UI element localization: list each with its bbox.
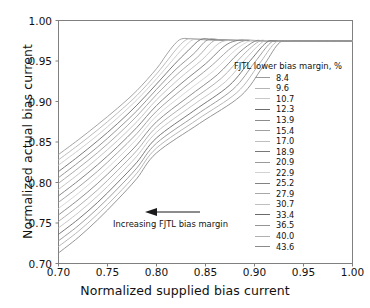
- legend-label: 36.5: [276, 221, 294, 229]
- legend-label: 20.9: [276, 158, 294, 166]
- legend-swatch: [255, 204, 270, 205]
- legend-swatch: [255, 77, 270, 78]
- legend-swatch: [255, 98, 270, 99]
- legend-entry: 8.4: [233, 73, 351, 84]
- x-tick-label: 0.70: [39, 266, 79, 278]
- legend-entry: 30.7: [233, 199, 351, 210]
- y-axis-label: Normalized actual bias current: [20, 22, 35, 262]
- legend-label: 22.9: [276, 169, 294, 177]
- legend-entry: 9.6: [233, 83, 351, 94]
- legend-entry: 40.0: [233, 231, 351, 242]
- x-tick-label: 0.80: [137, 266, 177, 278]
- legend-label: 10.7: [276, 95, 294, 103]
- legend-entry: 22.9: [233, 168, 351, 179]
- x-tick-label: 0.85: [186, 266, 226, 278]
- legend-label: 33.4: [276, 211, 294, 219]
- legend-swatch: [255, 130, 270, 131]
- legend-swatch: [255, 109, 270, 110]
- x-tick-label: 1.00: [333, 266, 370, 278]
- legend-entry: 43.6: [233, 241, 351, 252]
- legend-swatch: [255, 246, 270, 247]
- legend-entry: 12.3: [233, 104, 351, 115]
- legend-entry: 20.9: [233, 157, 351, 168]
- legend-title: FJTL lower bias margin, %: [233, 62, 351, 70]
- legend-label: 15.4: [276, 127, 294, 135]
- legend-swatch: [255, 183, 270, 184]
- legend-swatch: [255, 214, 270, 215]
- legend-swatch: [255, 88, 270, 89]
- legend-label: 12.3: [276, 105, 294, 113]
- legend-swatch: [255, 225, 270, 226]
- legend-label: 25.2: [276, 179, 294, 187]
- legend-label: 13.9: [276, 116, 294, 124]
- legend-entry: 27.9: [233, 189, 351, 200]
- legend-swatch: [255, 162, 270, 163]
- legend-entries: 8.49.610.712.313.915.417.018.920.922.925…: [233, 73, 351, 252]
- legend-entry: 17.0: [233, 136, 351, 147]
- legend-swatch: [255, 172, 270, 173]
- legend-label: 17.0: [276, 137, 294, 145]
- x-tick-label: 0.95: [284, 266, 324, 278]
- legend-entry: 10.7: [233, 94, 351, 105]
- legend-label: 18.9: [276, 148, 294, 156]
- legend-label: 27.9: [276, 190, 294, 198]
- legend-swatch: [255, 151, 270, 152]
- legend-label: 43.6: [276, 243, 294, 251]
- legend-entry: 33.4: [233, 210, 351, 221]
- legend-label: 30.7: [276, 200, 294, 208]
- legend-entry: 36.5: [233, 220, 351, 231]
- x-axis-label: Normalized supplied bias current: [0, 283, 370, 298]
- legend-label: 9.6: [276, 84, 289, 92]
- legend-swatch: [255, 120, 270, 121]
- legend-label: 8.4: [276, 74, 289, 82]
- legend-entry: 18.9: [233, 146, 351, 157]
- legend-swatch: [255, 141, 270, 142]
- legend-label: 40.0: [276, 232, 294, 240]
- legend-entry: 25.2: [233, 178, 351, 189]
- left-arrow-icon: [144, 206, 202, 218]
- legend-swatch: [255, 236, 270, 237]
- x-tick-label: 0.75: [88, 266, 128, 278]
- annotation-text: Increasing FJTL bias margin: [113, 219, 228, 229]
- legend: FJTL lower bias margin, % 8.49.610.712.3…: [233, 62, 351, 252]
- legend-swatch: [255, 193, 270, 194]
- legend-entry: 13.9: [233, 115, 351, 126]
- chart-figure: 0.700.750.800.850.900.951.00 0.700.750.8…: [0, 0, 370, 308]
- legend-entry: 15.4: [233, 125, 351, 136]
- x-tick-label: 0.90: [235, 266, 275, 278]
